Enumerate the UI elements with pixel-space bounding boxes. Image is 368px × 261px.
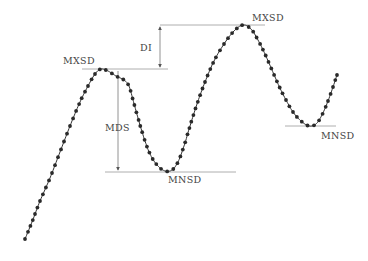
signal-point <box>329 92 333 96</box>
signal-point <box>62 140 66 144</box>
di-label: DI <box>140 42 152 53</box>
signal-point <box>121 78 125 82</box>
signal-point <box>312 123 316 127</box>
signal-point <box>331 85 335 89</box>
signal-point <box>110 72 114 76</box>
signal-point <box>206 74 210 78</box>
signal-point <box>126 82 130 86</box>
signal-point <box>104 68 108 72</box>
signal-point <box>138 124 142 128</box>
signal-point <box>269 67 273 71</box>
signal-point <box>176 161 180 165</box>
signal-point <box>50 171 54 175</box>
signal-point <box>47 179 51 183</box>
signal-point <box>264 54 268 58</box>
signal-point <box>26 230 30 234</box>
signal-point <box>137 118 141 122</box>
signal-point <box>135 110 139 114</box>
signal-point <box>31 218 35 222</box>
signal-point <box>247 25 251 29</box>
signal-point <box>41 192 45 196</box>
peak2-label: MXSD <box>252 12 284 23</box>
peak1-label: MXSD <box>63 55 95 66</box>
signal-point <box>33 212 37 216</box>
signal-point <box>326 99 330 103</box>
signal-point <box>267 60 271 64</box>
mds-label: MDS <box>105 122 130 133</box>
signal-point <box>306 124 310 128</box>
signal-point <box>211 61 215 65</box>
signal-point <box>165 170 169 174</box>
signal-point <box>288 104 292 108</box>
signal-point <box>129 89 133 93</box>
signal-point <box>159 167 163 171</box>
signal-point <box>183 140 187 144</box>
signal-point <box>226 36 230 40</box>
signal-point <box>196 100 200 104</box>
signal-point <box>154 162 158 166</box>
signal-point <box>235 27 239 31</box>
signal-point <box>80 96 84 100</box>
signal-point <box>240 23 244 27</box>
signal-point <box>278 86 282 90</box>
trough2-label: MNSD <box>321 130 354 141</box>
signal-point <box>74 109 78 113</box>
signal-point <box>335 73 339 77</box>
signal-point <box>261 48 265 52</box>
signal-point <box>143 138 147 142</box>
signal-point <box>222 42 226 46</box>
signal-point <box>38 199 42 203</box>
signal-point <box>171 167 175 171</box>
signal-point <box>65 132 69 136</box>
trough1-label: MNSD <box>168 174 201 185</box>
signal-point <box>192 113 196 117</box>
signal-point <box>198 93 202 97</box>
signal-point <box>214 55 218 59</box>
signal-point <box>179 155 183 159</box>
signal-point <box>148 151 152 155</box>
signal-point <box>258 42 262 46</box>
signal-point <box>131 97 135 101</box>
signal-point <box>23 237 27 241</box>
signal-point <box>186 132 190 136</box>
signal-point <box>208 67 212 71</box>
signal-point <box>333 78 337 82</box>
signal-point <box>56 155 60 159</box>
signal-point <box>77 102 81 106</box>
signal-point <box>181 148 185 152</box>
signal-point <box>230 31 234 35</box>
signal-point <box>295 115 299 119</box>
signal-point <box>317 118 321 122</box>
signal-point <box>194 107 198 111</box>
signal-point <box>284 98 288 102</box>
signal-point <box>251 30 255 34</box>
signal-point <box>275 79 279 83</box>
signal-point <box>324 105 328 109</box>
signal-point <box>83 90 87 94</box>
signal-point <box>59 148 63 152</box>
signal-point <box>53 163 57 167</box>
signal-point <box>203 80 207 84</box>
signal-point <box>321 112 325 116</box>
signal-point <box>90 77 94 81</box>
signal-point <box>86 84 90 88</box>
signal-point <box>201 87 205 91</box>
signal-point <box>44 186 48 190</box>
signal-point <box>93 72 97 76</box>
signal-point <box>36 206 40 210</box>
signal-point <box>68 124 72 128</box>
signal-point <box>98 68 102 72</box>
signal-point <box>281 91 285 95</box>
signal-point <box>189 120 193 124</box>
signal-point <box>272 73 276 77</box>
signal-point <box>29 224 33 228</box>
signal-point <box>133 103 137 107</box>
signal-point <box>71 117 75 121</box>
signal-point <box>188 126 192 130</box>
signal-point <box>218 48 222 52</box>
signal-point <box>291 110 295 114</box>
signal-point <box>300 120 304 124</box>
signal-point <box>140 130 144 134</box>
signal-diagram: MXSD MXSD DI MDS MNSD MNSD <box>0 0 368 261</box>
signal-point <box>145 145 149 149</box>
